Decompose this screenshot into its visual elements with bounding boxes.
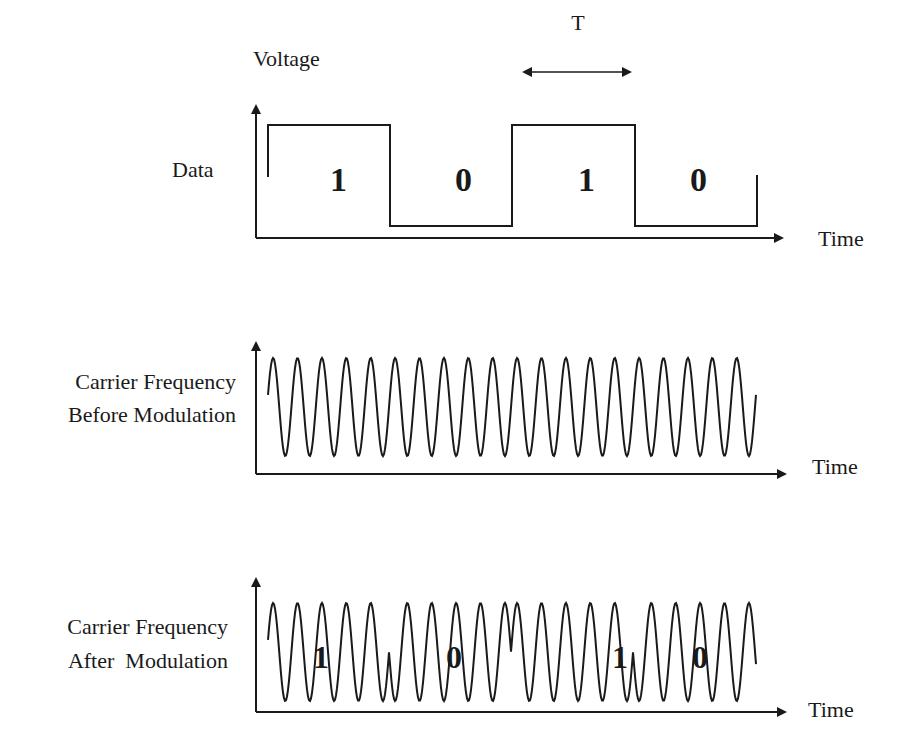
data-bit-2: 0 bbox=[455, 163, 472, 197]
data-bit-4: 0 bbox=[690, 163, 707, 197]
data-row-label: Data bbox=[172, 157, 214, 183]
carrier-before-waveform bbox=[268, 358, 756, 456]
carrier-before-label-line2: Before Modulation bbox=[18, 402, 236, 428]
modulated-bit-4: 0 bbox=[692, 640, 708, 674]
data-bit-3: 1 bbox=[578, 163, 595, 197]
carrier-before-time-label: Time bbox=[812, 454, 858, 480]
modulated-bit-3: 1 bbox=[612, 640, 628, 674]
carrier-after-waveform bbox=[268, 603, 756, 701]
modulated-bit-1: 1 bbox=[313, 640, 329, 674]
period-label: T bbox=[566, 10, 590, 36]
carrier-after-label-line2: After Modulation bbox=[8, 648, 228, 674]
carrier-after-label-line1: Carrier Frequency bbox=[8, 614, 228, 640]
carrier-before-label-line1: Carrier Frequency bbox=[18, 369, 236, 395]
carrier-after-time-label: Time bbox=[808, 697, 854, 723]
voltage-axis-label: Voltage bbox=[253, 46, 320, 72]
data-bit-1: 1 bbox=[330, 163, 347, 197]
data-time-label: Time bbox=[818, 226, 864, 252]
modulated-bit-2: 0 bbox=[446, 640, 462, 674]
